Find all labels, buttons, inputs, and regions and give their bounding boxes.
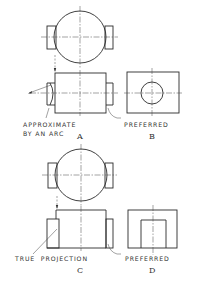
label-c: TRUE PROJECTION	[14, 255, 88, 263]
panel-letter-b: B	[149, 132, 155, 141]
preferred-leader	[108, 108, 121, 118]
drawing-canvas: APPROXIMATE BY AN ARC A PREFERRED B TRUE…	[0, 0, 200, 283]
front-view-c	[33, 206, 121, 254]
right-boss-front	[106, 83, 113, 105]
projection-line-c	[56, 196, 58, 209]
true-projection-leader	[33, 229, 57, 254]
right-boss	[105, 163, 113, 188]
label-leader	[46, 108, 49, 118]
front-view-a	[28, 70, 121, 118]
outer-rect	[128, 210, 177, 248]
projection-line-a	[54, 55, 56, 72]
side-view-d	[128, 205, 177, 255]
top-view-lower	[42, 144, 117, 206]
leader-line	[29, 85, 51, 93]
label-d: PREFERRED	[125, 255, 170, 262]
inner-boss-rect	[141, 220, 166, 248]
label-b: PREFERRED	[124, 121, 169, 128]
side-view-b	[124, 68, 182, 117]
left-boss	[48, 163, 57, 188]
top-view-upper	[41, 6, 118, 68]
left-boss	[47, 26, 56, 49]
panel-letter-a: A	[76, 132, 83, 141]
panel-letter-d: D	[149, 266, 155, 275]
label-a-line1: APPROXIMATE	[23, 121, 76, 128]
panel-letter-c: C	[77, 266, 83, 275]
arrowhead	[28, 91, 32, 94]
label-a-line2: BY AN ARC	[23, 130, 64, 137]
preferred-leader	[108, 244, 121, 254]
outer-rect	[127, 72, 179, 113]
approximate-arc	[50, 83, 53, 105]
body-outline	[47, 210, 106, 248]
right-boss-front	[106, 219, 113, 248]
